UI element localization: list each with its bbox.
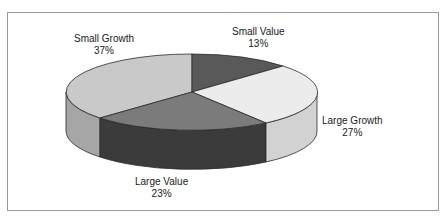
pie-chart-3d: [0, 0, 447, 220]
label-large-value: Large Value 23%: [135, 176, 188, 200]
label-large-growth: Large Growth 27%: [322, 115, 383, 139]
label-small-value-name: Small Value: [232, 26, 285, 38]
label-small-value: Small Value 13%: [232, 26, 285, 50]
label-large-growth-pct: 27%: [322, 127, 383, 139]
label-small-growth-pct: 37%: [74, 45, 134, 57]
label-small-value-pct: 13%: [232, 38, 285, 50]
label-small-growth: Small Growth 37%: [74, 33, 134, 57]
label-small-growth-name: Small Growth: [74, 33, 134, 45]
label-large-value-name: Large Value: [135, 176, 188, 188]
label-large-growth-name: Large Growth: [322, 115, 383, 127]
label-large-value-pct: 23%: [135, 188, 188, 200]
